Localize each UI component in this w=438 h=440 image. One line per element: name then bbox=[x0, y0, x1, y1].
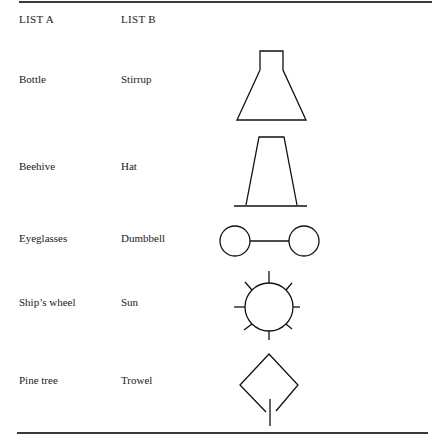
trowel-shape-icon bbox=[240, 354, 298, 426]
figures bbox=[0, 0, 438, 440]
bottom-rule bbox=[17, 432, 428, 434]
hat-shape-icon bbox=[234, 137, 307, 206]
dumbbell-shape-icon bbox=[220, 226, 319, 256]
sun-shape-icon bbox=[234, 271, 300, 340]
stirrup-shape-icon bbox=[237, 51, 306, 120]
